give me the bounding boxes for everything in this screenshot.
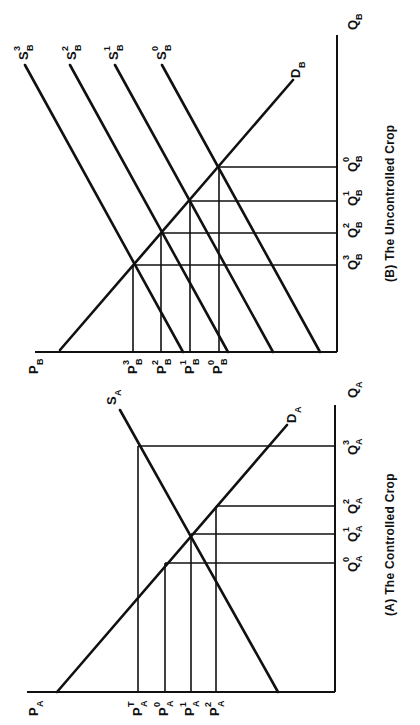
svg-text:2: 2 [341,223,351,228]
svg-text:0: 0 [341,157,351,162]
svg-text:B: B [73,44,83,51]
svg-text:A: A [216,700,226,707]
tick-qb3: Q B 3 [341,253,364,270]
svg-text:P: P [26,365,41,374]
svg-text:B: B [354,189,364,196]
svg-text:P: P [130,707,145,716]
tick-pa2: P A 2 [203,700,226,716]
caption-panel-a: (A) The Controlled Crop [383,473,397,616]
svg-text:B: B [219,358,229,365]
demand-curve-db [60,80,293,350]
svg-text:1: 1 [178,702,188,707]
svg-text:A: A [35,700,45,707]
svg-text:Q: Q [345,504,360,514]
svg-text:Q: Q [345,260,360,270]
svg-text:B: B [134,358,144,365]
svg-text:A: A [165,700,175,707]
supply-curve-sb3 [25,65,183,352]
svg-text:1: 1 [102,46,112,51]
svg-text:A: A [354,381,364,388]
supply-demand-diagram: S B 3 S B 2 S B 1 S B 0 D B Q B Q [0,0,420,725]
svg-text:B: B [35,358,45,365]
svg-text:A: A [139,700,149,707]
tick-pb1: P B 1 [178,358,201,374]
svg-text:B: B [354,13,364,20]
svg-text:A: A [354,525,364,532]
tick-qb1: Q B 1 [341,189,364,206]
svg-text:1: 1 [341,191,351,196]
svg-text:0: 0 [150,46,160,51]
supply-curve-sb2 [70,65,228,352]
svg-text:2: 2 [203,702,213,707]
svg-text:1: 1 [341,527,351,532]
svg-text:D: D [288,69,303,78]
supply-curve-sa [120,410,278,692]
svg-text:B: B [297,61,307,68]
svg-text:P: P [156,707,171,716]
label-pb-axis: P B [26,358,45,374]
svg-text:P: P [125,365,140,374]
tick-pb2: P B 2 [150,358,173,374]
svg-text:0: 0 [152,702,162,707]
svg-text:B: B [163,358,173,365]
label-qb-axis: Q B [345,13,364,30]
svg-text:A: A [191,700,201,707]
label-sa: S A [104,389,123,405]
svg-text:B: B [354,221,364,228]
svg-text:3: 3 [341,440,351,445]
svg-text:A: A [354,555,364,562]
svg-text:S: S [64,51,79,60]
svg-text:A: A [113,389,123,396]
svg-text:Q: Q [345,562,360,572]
svg-text:P: P [154,365,169,374]
tick-pat: P A T [126,700,149,716]
svg-text:P: P [182,365,197,374]
tick-pa0: P A 0 [152,700,175,716]
svg-text:A: A [354,438,364,445]
svg-text:Q: Q [345,445,360,455]
svg-text:B: B [25,44,35,51]
label-sb2: S B 2 [60,44,83,60]
svg-text:B: B [115,44,125,51]
svg-text:Q: Q [345,228,360,238]
supply-curve-sb0 [162,65,320,352]
label-da: D A [284,406,303,423]
svg-text:2: 2 [60,46,70,51]
svg-text:S: S [16,51,31,60]
label-db: D B [288,61,307,78]
svg-text:P: P [207,707,222,716]
label-sb3: S B 3 [12,44,35,60]
label-sb0: S B 0 [150,44,173,60]
svg-text:0: 0 [206,360,216,365]
tick-qa1: Q A 1 [341,525,364,542]
tick-qb0: Q B 0 [341,155,364,172]
tick-qb2: Q B 2 [341,221,364,238]
label-pa-axis: P A [26,700,45,716]
supply-curve-sb1 [115,65,273,352]
svg-text:P: P [26,707,41,716]
svg-text:B: B [191,358,201,365]
svg-text:Q: Q [345,20,360,30]
svg-text:S: S [104,396,119,405]
svg-text:A: A [354,497,364,504]
svg-text:0: 0 [341,557,351,562]
svg-text:B: B [163,44,173,51]
svg-text:(B) The Uncontrolled Crop: (B) The Uncontrolled Crop [383,125,397,283]
svg-text:(A) The Controlled Crop: (A) The Controlled Crop [383,473,397,616]
tick-pb3: P B 3 [121,358,144,374]
label-sb1: S B 1 [102,44,125,60]
svg-text:3: 3 [121,360,131,365]
tick-pa1: P A 1 [178,700,201,716]
svg-text:T: T [126,701,136,707]
svg-text:B: B [354,253,364,260]
svg-text:Q: Q [345,532,360,542]
tick-pb0: P B 0 [206,358,229,374]
svg-text:3: 3 [12,46,22,51]
svg-text:S: S [154,51,169,60]
panel-a-controlled-crop: S A D A Q A Q A 3 Q A 2 Q A 1 Q A [26,381,397,716]
caption-panel-b: (B) The Uncontrolled Crop [383,125,397,283]
svg-text:1: 1 [178,360,188,365]
svg-text:Q: Q [345,196,360,206]
svg-text:P: P [210,365,225,374]
panel-b-uncontrolled-crop: S B 3 S B 2 S B 1 S B 0 D B Q B Q [12,13,397,374]
